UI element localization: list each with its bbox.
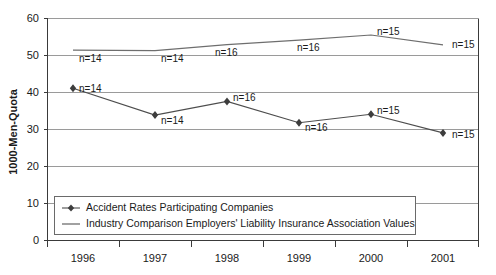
point-label-accident-1997: n=14 <box>161 115 184 126</box>
point-label-accident-2000: n=15 <box>377 105 400 116</box>
data-point-marker-1999 <box>296 119 302 127</box>
legend-item-accident-rates[interactable]: Accident Rates Participating Companies <box>62 201 273 213</box>
data-point-marker-2000 <box>368 110 374 118</box>
y-tick-label-50: 50 <box>27 49 39 61</box>
y-tick-labels: 60 50 40 30 20 10 0 <box>27 12 39 246</box>
y-tick-label-0: 0 <box>33 234 39 246</box>
data-point-marker-1996 <box>70 84 76 92</box>
data-point-marker-1998 <box>224 97 230 105</box>
y-tick-marks <box>44 19 48 241</box>
line-chart: 60 50 40 30 20 10 0 1000-Men-Quota 1996 … <box>0 0 496 275</box>
y-tick-label-20: 20 <box>27 160 39 172</box>
x-tick-label-1996: 1996 <box>71 252 95 264</box>
point-label-industry-1997: n=14 <box>161 53 184 64</box>
y-tick-label-60: 60 <box>27 12 39 24</box>
y-tick-label-40: 40 <box>27 86 39 98</box>
point-label-industry-2001: n=15 <box>452 39 475 50</box>
point-label-accident-1998: n=16 <box>233 92 256 103</box>
point-labels-accident-rates: n=14 n=14 n=16 n=16 n=15 n=15 <box>79 83 475 140</box>
x-tick-marks <box>48 241 479 247</box>
point-label-accident-1999: n=16 <box>305 122 328 133</box>
x-tick-label-1998: 1998 <box>215 252 239 264</box>
point-labels-industry-comparison: n=14 n=14 n=16 n=16 n=15 n=15 <box>79 26 475 64</box>
point-label-industry-1999: n=16 <box>297 42 320 53</box>
chart-canvas: 60 50 40 30 20 10 0 1000-Men-Quota 1996 … <box>0 0 496 275</box>
x-tick-label-1999: 1999 <box>287 252 311 264</box>
x-tick-label-1997: 1997 <box>143 252 167 264</box>
point-label-industry-1998: n=16 <box>215 47 238 58</box>
y-tick-label-10: 10 <box>27 197 39 209</box>
y-tick-label-30: 30 <box>27 123 39 135</box>
point-label-accident-2001: n=15 <box>452 129 475 140</box>
legend-label-accident-rates: Accident Rates Participating Companies <box>86 201 273 213</box>
y-axis-title: 1000-Men-Quota <box>7 88 19 174</box>
gridlines <box>48 19 479 204</box>
point-label-industry-1996: n=14 <box>79 53 102 64</box>
series-line-industry-comparison <box>73 35 443 51</box>
point-label-industry-2000: n=15 <box>377 26 400 37</box>
x-tick-label-2000: 2000 <box>359 252 383 264</box>
legend-label-industry-comparison: Industry Comparison Employers' Liability… <box>86 217 415 229</box>
chart-legend[interactable]: Accident Rates Participating Companies I… <box>55 197 416 235</box>
data-point-marker-1997 <box>152 111 158 119</box>
data-point-marker-2001 <box>440 129 446 137</box>
x-tick-labels: 1996 1997 1998 1999 2000 2001 <box>71 252 455 264</box>
point-label-accident-1996: n=14 <box>79 83 102 94</box>
x-tick-label-2001: 2001 <box>431 252 455 264</box>
legend-item-industry-comparison[interactable]: Industry Comparison Employers' Liability… <box>62 217 415 229</box>
